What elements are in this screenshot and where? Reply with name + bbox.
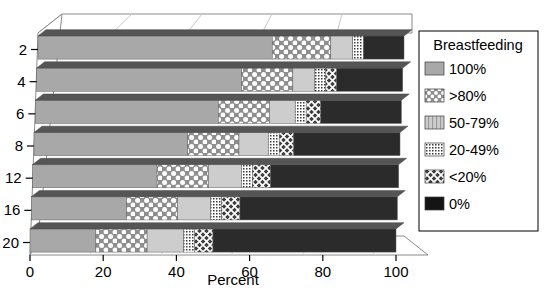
bar-row xyxy=(38,30,412,59)
bar-segment xyxy=(279,132,294,155)
bar-segment xyxy=(306,100,321,123)
x-tick-label: 100 xyxy=(383,263,408,280)
bar-segment xyxy=(364,36,404,59)
bar-segment xyxy=(33,165,157,188)
legend-item-label: 50-79% xyxy=(449,115,499,131)
swatch-solid-gray xyxy=(425,62,444,75)
bar-segment xyxy=(270,100,296,123)
y-tick-label: 16 xyxy=(4,201,21,218)
bar-top-face xyxy=(38,30,412,36)
bar-segment xyxy=(337,68,403,91)
y-tick-label: 20 xyxy=(2,234,19,251)
bar-row xyxy=(37,62,411,91)
x-tick-label: 20 xyxy=(95,263,112,280)
bar-segment xyxy=(272,36,331,59)
bar-segment xyxy=(195,229,213,252)
bar-segment xyxy=(157,165,208,188)
bar-segment xyxy=(321,100,402,123)
bar-segment xyxy=(30,229,96,252)
bar-segment xyxy=(326,68,337,91)
x-axis-title: Percent xyxy=(207,271,260,288)
bar-top-face xyxy=(33,158,407,164)
bar-segment xyxy=(240,197,397,220)
legend-item-label: 100% xyxy=(449,61,486,77)
swatch-solid-light xyxy=(425,116,444,129)
bar-segment xyxy=(178,197,211,220)
bar-segment xyxy=(252,165,270,188)
legend-item-label: 0% xyxy=(449,196,470,212)
legend-item[interactable]: 50-79% xyxy=(425,115,499,131)
bar-segment xyxy=(239,132,268,155)
y-tick-label: 4 xyxy=(17,73,25,90)
bar-segment xyxy=(37,68,242,91)
legend-item[interactable]: >80% xyxy=(425,88,487,104)
bar-segment xyxy=(38,36,272,59)
bar-segment xyxy=(293,68,315,91)
x-tick-label: 40 xyxy=(168,263,185,280)
bar-segment xyxy=(147,229,184,252)
bar-row xyxy=(30,223,404,252)
bar-top-face xyxy=(31,190,405,196)
bar-segment xyxy=(331,36,353,59)
bar-segment xyxy=(126,197,177,220)
x-tick-label: 80 xyxy=(314,263,331,280)
bar-segment xyxy=(211,197,222,220)
swatch-dots-fine xyxy=(425,143,444,156)
bar-top-face xyxy=(37,62,411,68)
legend: Breastfeeding 100%>80%50-79%20-49%<20%0% xyxy=(419,31,538,231)
chart-canvas: 2468121620 020406080100 Percent Breastfe… xyxy=(0,0,550,292)
bar-segment xyxy=(268,132,279,155)
bar-top-face xyxy=(30,223,404,229)
legend-item[interactable]: <20% xyxy=(425,169,487,185)
legend-item-label: >80% xyxy=(449,88,487,104)
bar-segment xyxy=(208,165,241,188)
bar-segment xyxy=(218,100,269,123)
bar-segment xyxy=(213,229,396,252)
legend-item-label: <20% xyxy=(449,169,487,185)
x-tick-label: 0 xyxy=(26,263,34,280)
legend-item-label: 20-49% xyxy=(449,142,499,158)
y-tick-label: 2 xyxy=(19,41,27,58)
bar-segment xyxy=(315,68,326,91)
bar-row xyxy=(34,126,408,155)
bar-segment xyxy=(184,229,195,252)
bar-row xyxy=(31,190,405,219)
bar-segment xyxy=(241,165,252,188)
bar-segment xyxy=(242,68,293,91)
bar-segment xyxy=(31,197,126,220)
bar-segment xyxy=(222,197,240,220)
swatch-black xyxy=(425,197,444,210)
bar-segment xyxy=(34,132,188,155)
y-tick-label: 6 xyxy=(16,105,24,122)
legend-item[interactable]: 100% xyxy=(425,61,486,77)
bar-top-face xyxy=(34,126,408,132)
y-tick-label: 12 xyxy=(5,169,22,186)
bar-segment xyxy=(295,100,306,123)
legend-item[interactable]: 20-49% xyxy=(425,142,499,158)
bar-segment xyxy=(188,132,239,155)
bar-segment xyxy=(294,132,400,155)
bar-top-face xyxy=(35,94,409,100)
swatch-crosshatch xyxy=(425,170,444,183)
bar-segment xyxy=(271,165,399,188)
bar-segment xyxy=(353,36,364,59)
chart-figure: 2468121620 020406080100 Percent Breastfe… xyxy=(0,0,550,292)
bar-row xyxy=(33,158,407,187)
bar-segment xyxy=(96,229,147,252)
legend-title: Breastfeeding xyxy=(433,37,522,53)
bar-row xyxy=(35,94,409,123)
bar-group xyxy=(30,30,412,252)
swatch-dots-large xyxy=(425,89,444,102)
y-tick-label: 8 xyxy=(15,137,23,154)
bar-segment xyxy=(35,100,218,123)
